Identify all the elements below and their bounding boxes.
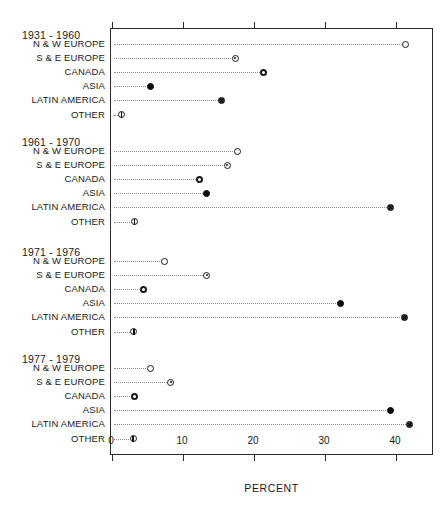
leader-line xyxy=(114,115,118,117)
category-label-asia: ASIA xyxy=(0,404,105,415)
data-point-open-circle xyxy=(147,365,154,372)
data-point-barred-circle xyxy=(130,435,137,442)
data-point-ring-circle xyxy=(196,176,203,183)
data-point-open-circle xyxy=(402,41,409,48)
x-tick-bottom xyxy=(112,454,113,461)
category-label-asia: ASIA xyxy=(0,297,105,308)
x-tick-top xyxy=(396,22,397,29)
category-label-n-w-europe: N & W EUROPE xyxy=(0,38,105,49)
data-point-ring-circle xyxy=(260,69,267,76)
category-label-latin-america: LATIN AMERICA xyxy=(0,418,105,429)
leader-line xyxy=(114,275,203,277)
leader-line xyxy=(114,439,129,441)
category-label-s-e-europe: S & E EUROPE xyxy=(0,376,105,387)
leader-line xyxy=(114,179,196,181)
x-tick-label: 30 xyxy=(318,435,329,446)
data-point-ring-circle xyxy=(131,393,138,400)
x-tick-top xyxy=(183,22,184,29)
x-tick-bottom xyxy=(254,454,255,461)
category-label-other: OTHER xyxy=(0,433,105,444)
leader-line xyxy=(114,332,130,334)
data-point-ring-circle xyxy=(140,286,147,293)
category-label-latin-america: LATIN AMERICA xyxy=(0,94,105,105)
leader-line xyxy=(114,151,233,153)
leader-line xyxy=(114,44,402,46)
data-point-filled-circle xyxy=(387,407,394,414)
x-tick-bottom xyxy=(396,454,397,461)
data-point-dotted-circle xyxy=(167,379,174,386)
leader-line xyxy=(114,382,167,384)
leader-line xyxy=(114,396,130,398)
x-axis-title: PERCENT xyxy=(110,482,433,494)
leader-line xyxy=(114,100,218,102)
leader-line xyxy=(114,193,203,195)
category-label-s-e-europe: S & E EUROPE xyxy=(0,269,105,280)
leader-line xyxy=(114,222,130,224)
leader-line xyxy=(114,207,387,209)
data-point-dotted-circle xyxy=(203,272,210,279)
data-point-barred-circle xyxy=(131,218,138,225)
data-point-filled-circle xyxy=(337,300,344,307)
immigration-percent-dot-chart: 0102030401931 - 1960N & W EUROPES & E EU… xyxy=(0,0,448,517)
category-label-n-w-europe: N & W EUROPE xyxy=(0,255,105,266)
x-tick-label: 0 xyxy=(108,435,114,446)
category-label-canada: CANADA xyxy=(0,283,105,294)
x-tick-bottom xyxy=(325,454,326,461)
category-label-n-w-europe: N & W EUROPE xyxy=(0,362,105,373)
category-label-other: OTHER xyxy=(0,109,105,120)
category-label-other: OTHER xyxy=(0,326,105,337)
category-label-n-w-europe: N & W EUROPE xyxy=(0,145,105,156)
x-tick-top xyxy=(112,22,113,29)
data-point-dotted-circle xyxy=(232,55,239,62)
category-label-s-e-europe: S & E EUROPE xyxy=(0,52,105,63)
leader-line xyxy=(114,261,160,263)
data-point-crossed-circle xyxy=(401,314,408,321)
data-point-open-circle xyxy=(234,148,241,155)
category-label-latin-america: LATIN AMERICA xyxy=(0,201,105,212)
category-label-canada: CANADA xyxy=(0,66,105,77)
data-point-open-circle xyxy=(161,258,168,265)
x-tick-label: 40 xyxy=(389,435,400,446)
category-label-asia: ASIA xyxy=(0,187,105,198)
x-tick-label: 10 xyxy=(176,435,187,446)
data-point-filled-circle xyxy=(147,83,154,90)
leader-line xyxy=(114,424,406,426)
category-label-latin-america: LATIN AMERICA xyxy=(0,311,105,322)
leader-line xyxy=(114,303,336,305)
plot-frame xyxy=(110,28,433,455)
leader-line xyxy=(114,72,260,74)
category-label-canada: CANADA xyxy=(0,173,105,184)
category-label-s-e-europe: S & E EUROPE xyxy=(0,159,105,170)
leader-line xyxy=(114,289,140,291)
x-tick-top xyxy=(325,22,326,29)
leader-line xyxy=(114,410,386,412)
leader-line xyxy=(114,368,146,370)
leader-line xyxy=(114,58,231,60)
leader-line xyxy=(114,317,400,319)
x-tick-label: 20 xyxy=(247,435,258,446)
category-label-other: OTHER xyxy=(0,216,105,227)
leader-line xyxy=(114,86,146,88)
x-tick-top xyxy=(254,22,255,29)
x-tick-bottom xyxy=(183,454,184,461)
category-label-asia: ASIA xyxy=(0,80,105,91)
leader-line xyxy=(114,165,223,167)
data-point-dotted-circle xyxy=(224,162,231,169)
category-label-canada: CANADA xyxy=(0,390,105,401)
